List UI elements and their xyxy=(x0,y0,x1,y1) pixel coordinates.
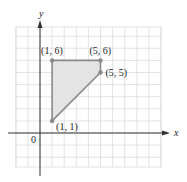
vertex-point xyxy=(50,58,54,62)
axes: x y 0 xyxy=(8,8,179,176)
vertex-point xyxy=(98,70,102,74)
vertex-label: (1, 6) xyxy=(41,45,63,57)
vertex-label: (5, 5) xyxy=(106,67,128,79)
x-axis-label: x xyxy=(173,127,179,138)
y-axis-label: y xyxy=(38,8,44,19)
vertex-point xyxy=(98,58,102,62)
x-axis-arrow-icon xyxy=(162,131,170,136)
coordinate-plane: x y 0 (1, 6)(5, 6)(5, 5)(1, 1) xyxy=(0,0,187,182)
origin-label: 0 xyxy=(31,134,36,145)
y-axis-arrow-icon xyxy=(38,20,43,28)
grid xyxy=(16,27,161,167)
vertex-label: (5, 6) xyxy=(90,45,112,57)
vertex-point xyxy=(50,119,54,123)
vertex-label: (1, 1) xyxy=(56,121,78,133)
